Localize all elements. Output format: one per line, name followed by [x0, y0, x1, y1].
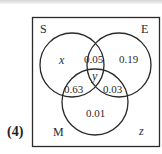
set-e-label: E: [141, 22, 148, 36]
venn-diagram: S E M x 0.05 0.19 y 0.63 0.03 0.01 z: [0, 0, 162, 154]
region-s-and-e: 0.05: [84, 53, 104, 65]
region-e-and-m: 0.03: [103, 83, 123, 95]
set-s-label: S: [40, 22, 47, 36]
region-s-and-m: 0.63: [64, 83, 84, 95]
region-outside: z: [138, 124, 144, 138]
region-s-only: x: [58, 53, 65, 67]
region-s-e-m: y: [91, 69, 98, 83]
region-e-only: 0.19: [119, 53, 139, 65]
set-m-label: M: [53, 125, 64, 139]
region-m-only: 0.01: [86, 107, 105, 119]
